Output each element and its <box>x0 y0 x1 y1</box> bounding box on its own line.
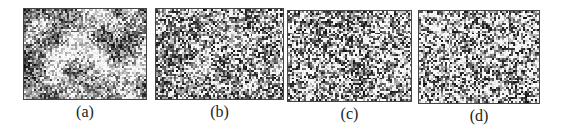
panel-a: (a) <box>23 8 147 100</box>
noise-image-b <box>155 8 284 100</box>
panel-label-d: (d) <box>418 108 540 124</box>
panel-label-a: (a) <box>23 104 147 120</box>
panel-c: (c) <box>287 10 412 102</box>
noise-image-d <box>418 10 540 104</box>
panel-b: (b) <box>155 8 284 100</box>
panel-d: (d) <box>418 10 540 104</box>
panel-label-b: (b) <box>155 104 284 120</box>
noise-image-c <box>287 10 412 102</box>
panel-label-c: (c) <box>287 106 412 122</box>
noise-image-a <box>23 8 147 100</box>
